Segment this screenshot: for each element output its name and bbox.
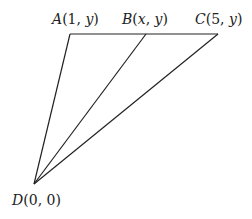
segment-d-b [34, 34, 146, 184]
label-point-b: B(x, y) [121, 11, 168, 27]
segment-d-c [34, 34, 218, 184]
label-point-d: D(0, 0) [11, 192, 61, 208]
label-point-c: C(5, y) [195, 11, 242, 27]
label-point-a: A(1, y) [50, 11, 99, 27]
triangle-diagram: A(1, y) B(x, y) C(5, y) D(0, 0) [0, 0, 252, 219]
segment-d-a [34, 34, 70, 184]
